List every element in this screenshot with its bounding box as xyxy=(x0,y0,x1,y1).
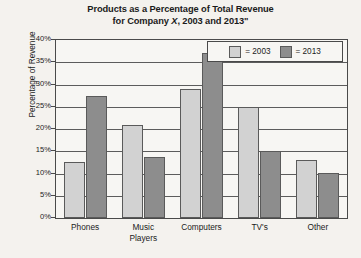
x-axis-tick-label-line: Players xyxy=(114,233,172,244)
x-axis-tick-label-line: Computers xyxy=(172,222,230,233)
bar-group xyxy=(289,40,347,218)
legend-label-2003: = 2003 xyxy=(245,47,270,56)
bar xyxy=(318,173,339,218)
chart-title-line-2: for Company X, 2003 and 2013" xyxy=(0,16,361,28)
y-axis-tick-label: 25% xyxy=(25,102,51,110)
legend-swatch-2013-icon xyxy=(280,46,292,58)
y-axis-tick-label: 30% xyxy=(25,80,51,88)
x-axis-tick-label-line: Music xyxy=(114,222,172,233)
chart-title-line-1: Products as a Percentage of Total Revenu… xyxy=(0,4,361,16)
chart-legend: = 2003 = 2013 xyxy=(207,41,343,62)
x-axis-tick-label-line: Phones xyxy=(56,222,114,233)
legend-entry-2013: = 2013 xyxy=(280,46,321,58)
y-axis-tick-label: 5% xyxy=(25,191,51,199)
bar xyxy=(180,89,201,218)
bar xyxy=(202,53,223,218)
bar-group xyxy=(231,40,289,218)
chart-title: Products as a Percentage of Total Revenu… xyxy=(0,4,361,27)
bar xyxy=(238,107,259,218)
legend-label-2013: = 2013 xyxy=(296,47,321,56)
y-axis-tick-labels: 40%35%30%25%20%15%10%5%0% xyxy=(22,39,51,219)
bar xyxy=(122,125,143,218)
x-axis-tick-label: Phones xyxy=(56,222,114,233)
x-axis-tick-labels: PhonesMusicPlayersComputersTV'sOther xyxy=(56,222,347,256)
y-axis-tick-label: 20% xyxy=(25,124,51,132)
x-axis-tick-label: Other xyxy=(289,222,347,233)
y-axis-tick-label: 10% xyxy=(25,169,51,177)
bar-group xyxy=(114,40,172,218)
bar xyxy=(260,151,281,218)
x-axis-tick-label: MusicPlayers xyxy=(114,222,172,244)
y-axis-tick-label: 40% xyxy=(25,35,51,43)
legend-entry-2003: = 2003 xyxy=(229,46,270,58)
bar-group xyxy=(172,40,230,218)
y-axis-tick-label: 15% xyxy=(25,146,51,154)
chart-title-line-2-prefix: for Company xyxy=(113,16,172,26)
bar xyxy=(64,162,85,218)
chart-title-line-2-suffix: , 2003 and 2013" xyxy=(177,16,248,26)
y-axis-tick-label: 0% xyxy=(25,213,51,221)
x-axis-tick-label-line: Other xyxy=(289,222,347,233)
x-axis-tick-label: TV's xyxy=(231,222,289,233)
bar xyxy=(296,160,317,218)
y-axis-tick-label: 35% xyxy=(25,57,51,65)
x-axis-tick-label-line: TV's xyxy=(231,222,289,233)
chart-figure: Products as a Percentage of Total Revenu… xyxy=(0,0,361,258)
bars-layer xyxy=(56,40,347,218)
legend-swatch-2003-icon xyxy=(229,46,241,58)
bar xyxy=(86,96,107,218)
x-axis-tick-label: Computers xyxy=(172,222,230,233)
bar-group xyxy=(56,40,114,218)
bar xyxy=(144,157,165,218)
